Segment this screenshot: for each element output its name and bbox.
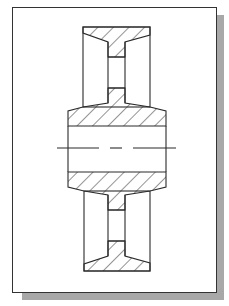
bore [68, 126, 166, 172]
upper-rim-hatch [83, 27, 150, 57]
lower-rim-hatch [84, 241, 150, 271]
section-drawing [0, 0, 229, 306]
